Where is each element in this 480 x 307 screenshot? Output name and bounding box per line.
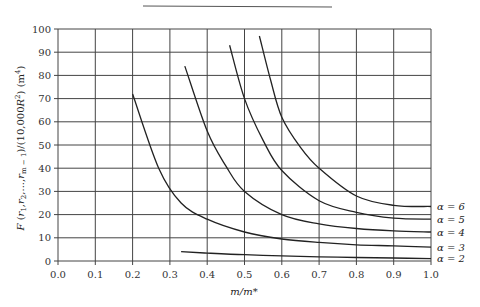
- x-tick-label: 0.4: [199, 269, 215, 280]
- y-tick-label: 0: [45, 256, 51, 267]
- x-tick-label: 0.7: [311, 269, 327, 280]
- series-label: α = 2: [437, 253, 465, 264]
- x-tick-label: 0.5: [237, 269, 253, 280]
- chart: 0.00.10.20.30.40.50.60.70.80.91.00102030…: [0, 0, 480, 307]
- tick-labels: 0.00.10.20.30.40.50.60.70.80.91.00102030…: [32, 24, 439, 281]
- y-tick-label: 30: [38, 186, 51, 197]
- series-label: α = 5: [437, 214, 465, 225]
- y-tick-label: 100: [32, 24, 51, 35]
- y-tick-label: 50: [38, 140, 51, 151]
- y-tick-label: 60: [38, 116, 51, 127]
- x-tick-label: 0.1: [87, 269, 103, 280]
- x-tick-label: 0.3: [162, 269, 178, 280]
- curve-alpha-6: [259, 36, 431, 207]
- y-tick-label: 10: [38, 232, 51, 243]
- x-tick-label: 1.0: [423, 269, 439, 280]
- x-tick-label: 0.2: [125, 269, 141, 280]
- series-label: α = 3: [437, 242, 465, 253]
- y-axis-label: F (r1,r2,...,rm − 1)/(10,000R2) (m4): [14, 65, 28, 231]
- y-tick-label: 70: [38, 93, 51, 104]
- x-tick-label: 0.8: [348, 269, 364, 280]
- header-rule: [143, 6, 332, 7]
- series-labels: α = 2α = 3α = 4α = 5α = 6: [437, 201, 465, 264]
- x-tick-label: 0.9: [386, 269, 402, 280]
- y-tick-label: 20: [38, 209, 51, 220]
- curve-alpha-5: [230, 45, 431, 219]
- x-tick-label: 0.0: [50, 269, 66, 280]
- x-axis-label: m/m*: [230, 286, 257, 297]
- series-label: α = 6: [437, 201, 465, 212]
- y-tick-label: 40: [38, 163, 51, 174]
- y-tick-label: 80: [38, 70, 51, 81]
- x-tick-label: 0.6: [274, 269, 290, 280]
- series-label: α = 4: [437, 227, 465, 238]
- y-tick-label: 90: [38, 47, 51, 58]
